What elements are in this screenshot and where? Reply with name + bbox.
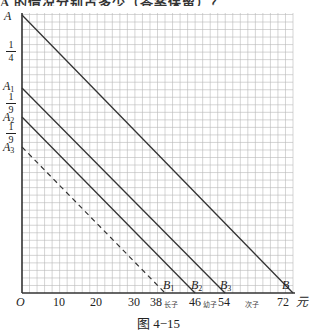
x-tick-10: 10 xyxy=(53,296,65,308)
x-tick-38: 38 xyxy=(150,296,162,308)
line-A3-B1-dashed xyxy=(22,147,165,293)
fraction-1-4: 14 xyxy=(6,40,16,63)
x-unit-label: 元 xyxy=(296,296,308,308)
x-tick-30: 30 xyxy=(128,296,140,308)
x-tick-46: 46 xyxy=(189,296,201,308)
label-B: B xyxy=(282,279,289,291)
x-tick-54: 54 xyxy=(218,296,230,308)
label-B1: B1 xyxy=(163,279,174,293)
line-A2-B2 xyxy=(22,117,195,293)
origin-label: O xyxy=(16,296,25,308)
tag-eldest-son: 长子 xyxy=(164,299,178,309)
label-B3: B3 xyxy=(220,279,231,293)
diagram-canvas xyxy=(0,0,317,331)
x-tick-72: 72 xyxy=(277,296,289,308)
figure-caption: 图 4−15 xyxy=(0,313,317,331)
label-A3: A3 xyxy=(3,141,14,155)
tag-second-son: 次子 xyxy=(245,299,259,309)
x-tick-20: 20 xyxy=(90,296,102,308)
label-B2: B2 xyxy=(191,279,202,293)
tag-youngest-son: 幼子 xyxy=(203,299,217,309)
label-A: A xyxy=(4,10,11,22)
